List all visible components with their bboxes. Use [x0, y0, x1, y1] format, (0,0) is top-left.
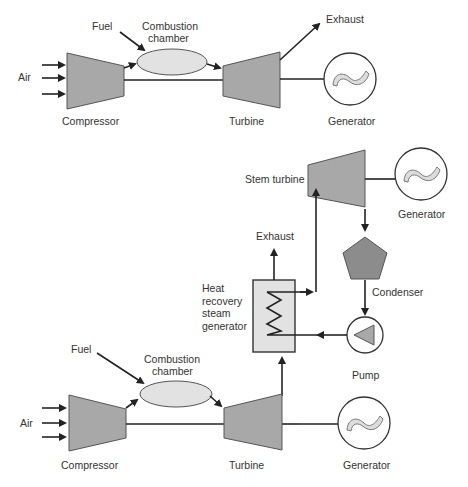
- turbine-label-top: Turbine: [229, 115, 264, 127]
- generator-bottom: [338, 397, 390, 449]
- pump: [347, 317, 383, 353]
- hrsg: [253, 280, 295, 352]
- generator-label-top: Generator: [328, 115, 376, 127]
- compressor-bottom: [69, 395, 126, 451]
- air-label-top: Air: [18, 71, 31, 83]
- combustion-label-bottom-1: Combustion: [144, 353, 200, 365]
- fuel-label-bottom: Fuel: [71, 343, 91, 355]
- top-cycle: Air Compressor Combustion chamber Fuel T…: [18, 13, 376, 127]
- exhaust-label-bottom: Exhaust: [256, 230, 294, 242]
- combustion-label-top-1: Combustion: [142, 20, 198, 32]
- condenser-label: Condenser: [372, 286, 424, 298]
- generator-label-steam: Generator: [398, 208, 446, 220]
- exhaust-label-top: Exhaust: [326, 13, 364, 25]
- turbine-bottom: [224, 394, 282, 450]
- fuel-arrow-top: [120, 32, 144, 50]
- hrsg-label-4: generator: [202, 320, 247, 332]
- turbine-label-bottom: Turbine: [229, 459, 264, 471]
- combustion-label-bottom-2: chamber: [152, 365, 193, 377]
- hrsg-label-1: Heat: [202, 282, 224, 294]
- compressor-label-top: Compressor: [62, 115, 120, 127]
- hrsg-label-2: recovery: [202, 295, 243, 307]
- compressor-label-bottom: Compressor: [61, 459, 119, 471]
- bottom-cycle: Stem turbine Generator Condenser Pump: [20, 148, 447, 471]
- pump-label: Pump: [352, 369, 380, 381]
- turbine-top: [223, 52, 280, 108]
- fuel-label-top: Fuel: [92, 20, 112, 32]
- hrsg-label-3: steam: [202, 307, 231, 319]
- combustion-label-top-2: chamber: [148, 32, 189, 44]
- air-label-bottom: Air: [20, 417, 33, 429]
- condenser: [343, 237, 387, 279]
- exhaust-arrow-top: [280, 24, 319, 60]
- generator-top: [324, 53, 376, 105]
- combustion-chamber-bottom: [140, 381, 212, 407]
- air-inlet-arrows-bottom: [42, 408, 65, 437]
- generator-label-bottom: Generator: [343, 459, 391, 471]
- fuel-arrow-bottom: [97, 353, 143, 383]
- combined-cycle-diagram: Air Compressor Combustion chamber Fuel T…: [0, 0, 468, 487]
- generator-steam: [395, 148, 447, 200]
- compressor-top: [67, 53, 124, 109]
- air-inlet-arrows-top: [42, 65, 64, 94]
- combustion-chamber-top: [137, 49, 207, 75]
- steam-turbine-label: Stem turbine: [245, 173, 305, 185]
